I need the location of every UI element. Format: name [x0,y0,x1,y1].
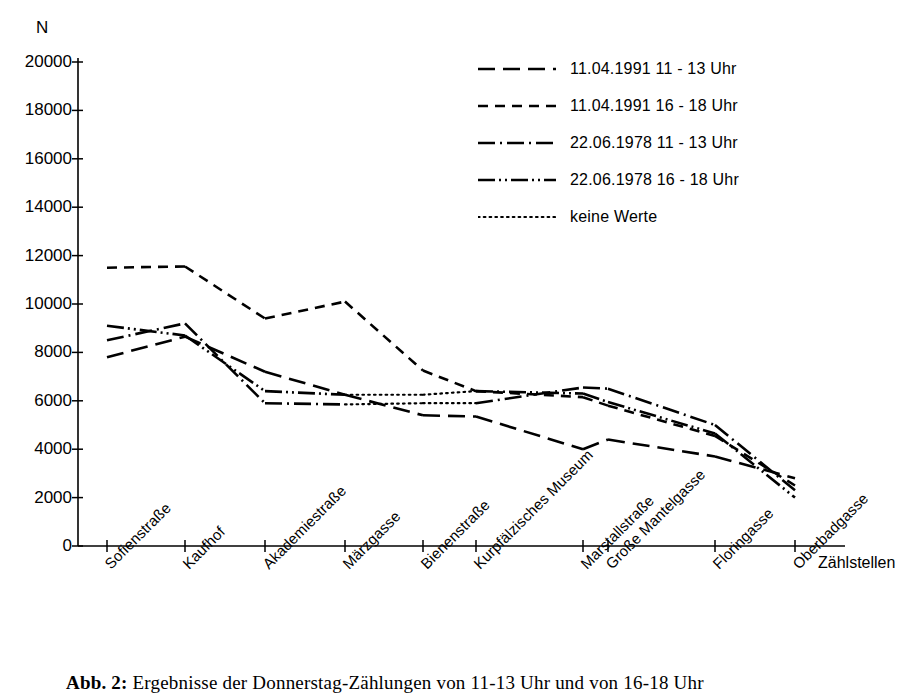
legend-label: 11.04.1991 11 - 13 Uhr [570,60,737,78]
legend-label: 11.04.1991 16 - 18 Uhr [570,97,738,115]
series-segment [423,415,476,416]
caption-number: Abb. 2: [66,672,128,693]
series-segment-no-value [423,391,476,395]
series-segment [265,391,345,395]
series-segment [265,403,345,404]
legend-item: 22.06.1978 11 - 13 Uhr [478,124,868,161]
series-segment [715,456,795,478]
series-segment [583,387,608,388]
series-segment [185,266,265,318]
legend-label: keine Werte [570,208,657,226]
series-segment [265,302,345,319]
series-segment [185,335,265,391]
series-segment [715,425,795,490]
chart-legend: 11.04.1991 11 - 13 Uhr11.04.1991 16 - 18… [478,50,868,235]
series-segment [423,371,476,392]
series-segment [107,266,185,267]
series-segment [476,417,583,450]
series-segment [608,402,715,433]
legend-item: 22.06.1978 16 - 18 Uhr [478,161,868,198]
series-segment [345,302,423,371]
long-dash-line-icon [478,62,556,76]
legend-label: 22.06.1978 11 - 13 Uhr [570,134,738,152]
dash-dot-line-icon [478,136,556,150]
dash-dot-dot-line-icon [478,173,556,187]
legend-label: 22.06.1978 16 - 18 Uhr [570,171,739,189]
short-dash-line-icon [478,99,556,113]
series-segment [107,326,185,336]
series-segment [583,440,608,450]
series-segment [608,440,715,457]
dotted-line-icon [478,210,556,224]
series-segment [715,433,795,497]
series-segment [107,337,185,358]
series-segment [185,337,265,372]
figure-caption: Abb. 2: Ergebnisse der Donnerstag-Zählun… [66,672,704,694]
chart-figure: N Zählstellen 02000400060008000100001200… [0,0,915,697]
legend-item: 11.04.1991 11 - 13 Uhr [478,50,868,87]
caption-text: Ergebnisse der Donnerstag-Zählungen von … [133,672,704,693]
legend-item: keine Werte [478,198,868,235]
legend-item: 11.04.1991 16 - 18 Uhr [478,87,868,124]
